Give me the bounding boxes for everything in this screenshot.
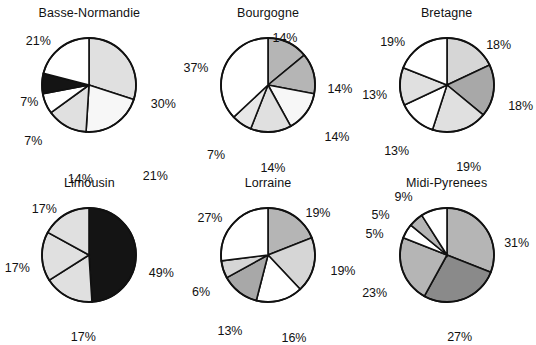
pie-panel: Basse-Normandie30%21%14%7%7%21% [0, 0, 179, 170]
slice-percentage-label: 5% [372, 208, 390, 222]
slice-percentage-label: 14% [272, 31, 297, 45]
pie-panel: Lorraine19%19%16%13%6%27% [179, 170, 358, 340]
pie-wrap: 18%18%19%13%13%19% [357, 0, 536, 170]
pie-panel: Bourgogne14%14%14%14%7%37% [179, 0, 358, 170]
slice-percentage-label: 27% [197, 211, 222, 225]
pie-wrap: 30%21%14%7%7%21% [0, 0, 179, 170]
pie-panel: Midi-Pyrenees31%27%23%5%5%9% [357, 170, 536, 340]
slice-percentage-label: 18% [508, 99, 533, 113]
pie-svg [387, 195, 507, 315]
pie-wrap: 31%27%23%5%5%9% [357, 170, 536, 340]
pie-panel: Limousin49%17%17%17% [0, 170, 179, 340]
slice-percentage-label: 19% [330, 264, 355, 278]
slice-percentage-label: 16% [281, 331, 306, 345]
slice-percentage-label: 9% [395, 190, 413, 204]
pie-wrap: 49%17%17%17% [0, 170, 179, 340]
slice-percentage-label: 17% [32, 202, 57, 216]
slice-percentage-label: 27% [447, 330, 472, 344]
slice-percentage-label: 31% [504, 236, 529, 250]
pie-slice [221, 208, 268, 261]
slice-percentage-label: 19% [380, 35, 405, 49]
slice-percentage-label: 6% [192, 285, 210, 299]
slice-percentage-label: 23% [362, 286, 387, 300]
slice-percentage-label: 30% [151, 97, 176, 111]
slice-percentage-label: 18% [486, 38, 511, 52]
slice-percentage-label: 13% [217, 324, 242, 338]
slice-percentage-label: 13% [362, 88, 387, 102]
slice-percentage-label: 21% [26, 34, 51, 48]
slice-percentage-label: 17% [5, 261, 30, 275]
pie-wrap: 14%14%14%14%7%37% [179, 0, 358, 170]
slice-percentage-label: 14% [327, 82, 352, 96]
slice-percentage-label: 7% [207, 148, 225, 162]
slice-percentage-label: 49% [149, 266, 174, 280]
pie-svg [208, 25, 328, 145]
slice-percentage-label: 7% [20, 95, 38, 109]
slice-percentage-label: 13% [384, 144, 409, 158]
slice-percentage-label: 14% [324, 130, 349, 144]
slice-percentage-label: 37% [183, 61, 208, 75]
pie-panel: Bretagne18%18%19%13%13%19% [357, 0, 536, 170]
slice-percentage-label: 17% [71, 330, 96, 344]
pie-slice [89, 208, 136, 302]
slice-percentage-label: 5% [366, 227, 384, 241]
pie-wrap: 19%19%16%13%6%27% [179, 170, 358, 340]
slice-percentage-label: 19% [305, 206, 330, 220]
slice-percentage-label: 7% [24, 134, 42, 148]
